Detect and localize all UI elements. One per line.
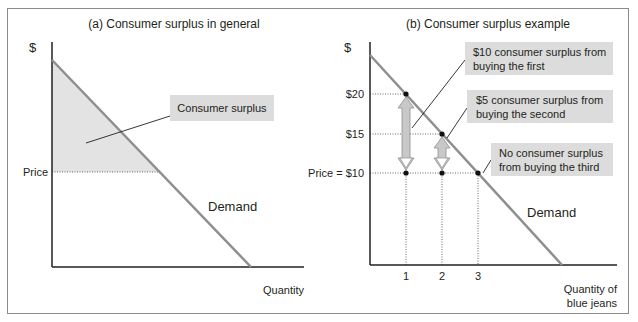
- x-axis-label-line1: Quantity of: [564, 283, 618, 295]
- x-axis-label: Quantity: [263, 284, 304, 296]
- y-axis-label: $: [29, 40, 37, 55]
- y-axis-label: $: [344, 40, 352, 55]
- callout-3-line1: No consumer surplus: [499, 147, 603, 159]
- callout-3-line2: from buying the third: [499, 161, 599, 173]
- y-tick-20: $20: [346, 88, 364, 100]
- demand-label: Demand: [208, 199, 257, 214]
- consumer-surplus-callout: Consumer surplus: [177, 102, 267, 114]
- point-q2-wtp: [439, 131, 444, 136]
- demand-label: Demand: [527, 205, 576, 220]
- callout-1-line2: buying the first: [473, 60, 545, 72]
- point-q1-wtp: [403, 91, 408, 96]
- x-axis-label-line2: blue jeans: [567, 297, 618, 309]
- x-tick-2: 2: [439, 270, 445, 282]
- price-label: Price: [23, 166, 48, 178]
- panel-b-title: (b) Consumer surplus example: [406, 17, 570, 31]
- consumer-surplus-figure: (a) Consumer surplus in general $ Price …: [0, 0, 638, 322]
- point-q2-price: [439, 170, 444, 175]
- point-q3-wtp: [475, 170, 480, 175]
- callout-1-line1: $10 consumer surplus from: [473, 46, 606, 58]
- y-tick-15: $15: [346, 128, 364, 140]
- callout-2-line1: $5 consumer surplus from: [476, 94, 603, 106]
- x-tick-3: 3: [475, 270, 481, 282]
- callout-2-line2: buying the second: [476, 108, 565, 120]
- x-tick-1: 1: [403, 270, 409, 282]
- point-q1-price: [403, 170, 408, 175]
- panel-a-title: (a) Consumer surplus in general: [88, 17, 259, 31]
- y-tick-10: Price = $10: [308, 167, 364, 179]
